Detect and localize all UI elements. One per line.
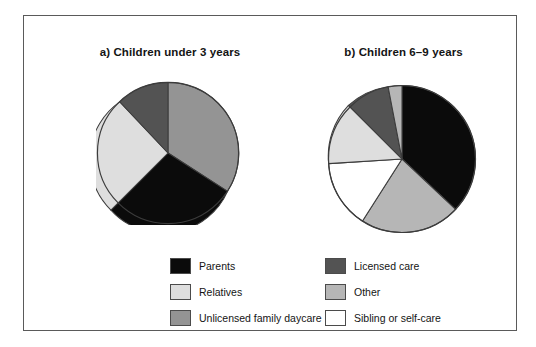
legend-label-other: Other (354, 287, 380, 298)
legend-column-right: Licensed care Other Sibling or self-care (325, 256, 500, 334)
legend-label-licensed-care: Licensed care (354, 261, 419, 272)
pie-chart-b (327, 84, 477, 234)
legend-column-left: Parents Relatives Unlicensed family dayc… (170, 256, 348, 334)
legend-item-relatives: Relatives (170, 282, 348, 302)
legend-item-unlicensed-family-daycare: Unlicensed family daycare (170, 308, 348, 328)
legend-item-licensed-care: Licensed care (325, 256, 500, 276)
legend: Parents Relatives Unlicensed family dayc… (170, 256, 500, 334)
swatch-unlicensed-family-daycare (170, 310, 191, 326)
swatch-parents (170, 258, 191, 274)
legend-label-sibling-or-self-care: Sibling or self-care (354, 313, 441, 324)
legend-item-parents: Parents (170, 256, 348, 276)
pie-chart-a (96, 81, 240, 225)
legend-item-sibling-or-self-care: Sibling or self-care (325, 308, 500, 328)
legend-label-parents: Parents (199, 261, 235, 272)
legend-label-unlicensed-family-daycare: Unlicensed family daycare (199, 313, 322, 324)
swatch-licensed-care (325, 258, 346, 274)
swatch-other (325, 284, 346, 300)
legend-label-relatives: Relatives (199, 287, 242, 298)
chart-b-title: b) Children 6–9 years (316, 46, 491, 58)
chart-a-title: a) Children under 3 years (80, 46, 260, 58)
swatch-sibling-or-self-care (325, 310, 346, 326)
swatch-relatives (170, 284, 191, 300)
legend-item-other: Other (325, 282, 500, 302)
figure-frame: a) Children under 3 years b) Children 6–… (23, 15, 517, 331)
